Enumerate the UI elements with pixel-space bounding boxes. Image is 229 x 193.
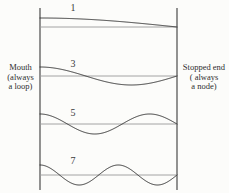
mouth-label-line-3: a loop) <box>1 82 40 92</box>
harmonic-number-3: 3 <box>66 59 80 69</box>
standing-wave-harmonics-figure: Mouth (always a loop) Stopped end ( alwa… <box>0 0 229 193</box>
stopped-end-label: Stopped end ( always a node) <box>179 63 229 92</box>
mouth-end-label: Mouth (always a loop) <box>1 63 40 92</box>
stopped-label-line-3: a node) <box>179 82 229 92</box>
harmonic-number-7: 7 <box>66 156 80 166</box>
harmonic-number-1: 1 <box>66 3 80 13</box>
wave-curve-harmonic-1 <box>40 18 177 27</box>
pipe-walls <box>40 8 177 190</box>
harmonics-diagram-svg <box>0 0 229 193</box>
harmonic-wave-curves <box>40 18 177 185</box>
harmonic-number-5: 5 <box>66 108 80 118</box>
harmonic-axis-lines <box>40 27 177 175</box>
